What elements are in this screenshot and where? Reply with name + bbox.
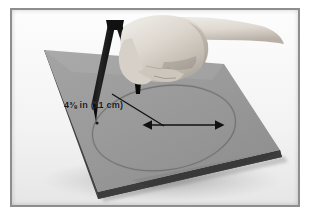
photo-scene: 4⅜ in (11 cm) xyxy=(12,10,298,205)
figure-root: 4⅜ in (11 cm) xyxy=(0,0,313,224)
dimension-label: 4⅜ in (11 cm) xyxy=(64,100,123,110)
compass-pivot-point xyxy=(95,121,98,124)
compass-hinge xyxy=(106,20,124,30)
photo-illustration xyxy=(12,10,298,205)
photo-frame: 4⅜ in (11 cm) xyxy=(10,8,300,207)
